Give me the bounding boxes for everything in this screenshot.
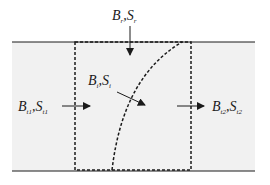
label-interface: Bi,Si [88, 73, 111, 90]
flux-diagram: Br,Sr Bi,Si Bt1,St1 Bt2,St2 [0, 0, 270, 185]
label-top: Br,Sr [112, 8, 137, 25]
